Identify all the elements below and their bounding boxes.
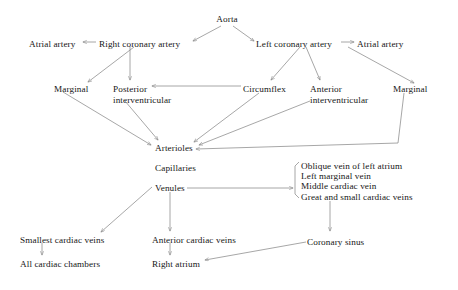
node-circumflex: Circumflex <box>243 84 286 95</box>
edge-aorta-to-left-coronary <box>233 26 254 41</box>
node-marginal-right: Marginal <box>393 84 427 95</box>
node-circumflex-label: Circumflex <box>243 84 286 94</box>
node-coronary-sinus: Coronary sinus <box>307 237 364 248</box>
node-arterioles-label: Arterioles <box>155 143 193 153</box>
edge-aorta-to-right-coronary <box>193 26 221 41</box>
node-anterior-cardiac-veins: Anterior cardiac veins <box>152 235 236 246</box>
node-arterioles: Arterioles <box>155 143 193 154</box>
node-venules: Venules <box>155 183 185 194</box>
node-right-atrium-label: Right atrium <box>152 259 200 269</box>
node-right-atrium: Right atrium <box>152 259 200 270</box>
node-venules-label: Venules <box>155 183 185 193</box>
node-atrial-artery-left-label: Atrial artery <box>29 39 75 49</box>
node-all-cardiac-chambers-label: All cardiac chambers <box>20 259 100 269</box>
node-right-coronary-artery: Right coronary artery <box>99 39 180 50</box>
node-posterior-interventricular-label-line2: interventricular <box>113 95 171 106</box>
node-left-coronary-artery: Left coronary artery <box>256 39 332 50</box>
edge-anterior-iv-to-arterioles <box>199 101 310 145</box>
node-smallest-cardiac-veins-label: Smallest cardiac veins <box>20 235 104 245</box>
node-atrial-artery-left: Atrial artery <box>29 39 75 50</box>
node-anterior-interventricular: Anterior interventricular <box>310 84 368 105</box>
node-right-coronary-artery-label: Right coronary artery <box>99 39 180 49</box>
edge-circumflex-to-arterioles <box>194 93 259 142</box>
edge-right-coronary-to-marginal-left <box>88 47 134 82</box>
node-anterior-cardiac-veins-label: Anterior cardiac veins <box>152 235 236 245</box>
node-aorta: Aorta <box>216 14 237 25</box>
vein-list: Oblique vein of left atrium Left margina… <box>301 161 413 202</box>
vein-list-item-great-small-cardiac: Great and small cardiac veins <box>301 192 413 202</box>
edge-left-coronary-to-marginal-right <box>348 47 414 83</box>
node-marginal-left: Marginal <box>54 84 88 95</box>
vein-list-item-middle-cardiac: Middle cardiac vein <box>301 181 413 191</box>
edge-left-coronary-to-anterior-iv <box>306 47 320 80</box>
edge-posterior-iv-to-arterioles <box>125 101 158 140</box>
node-smallest-cardiac-veins: Smallest cardiac veins <box>20 235 104 246</box>
node-anterior-interventricular-label: Anterior <box>310 84 342 94</box>
edge-venules-to-smallest-cardiac <box>101 187 152 232</box>
edge-left-coronary-to-circumflex <box>271 47 300 80</box>
node-all-cardiac-chambers: All cardiac chambers <box>20 259 100 270</box>
vein-list-bracket <box>295 162 299 198</box>
node-anterior-interventricular-label-line2: interventricular <box>310 95 368 106</box>
node-posterior-interventricular: Posterior interventricular <box>113 84 171 105</box>
node-marginal-right-label: Marginal <box>393 84 427 94</box>
coronary-circulation-diagram: Aorta Atrial artery Right coronary arter… <box>0 0 458 290</box>
edge-marginal-right-to-arterioles <box>196 93 404 149</box>
node-aorta-label: Aorta <box>216 14 237 24</box>
node-capillaries: Capillaries <box>155 163 196 174</box>
node-left-coronary-artery-label: Left coronary artery <box>256 39 332 49</box>
node-marginal-left-label: Marginal <box>54 84 88 94</box>
node-capillaries-label: Capillaries <box>155 163 196 173</box>
node-atrial-artery-right: Atrial artery <box>357 39 403 50</box>
node-atrial-artery-right-label: Atrial artery <box>357 39 403 49</box>
node-posterior-interventricular-label: Posterior <box>113 84 147 94</box>
vein-list-item-oblique: Oblique vein of left atrium <box>301 161 413 171</box>
vein-list-item-left-marginal: Left marginal vein <box>301 171 413 181</box>
node-coronary-sinus-label: Coronary sinus <box>307 237 364 247</box>
